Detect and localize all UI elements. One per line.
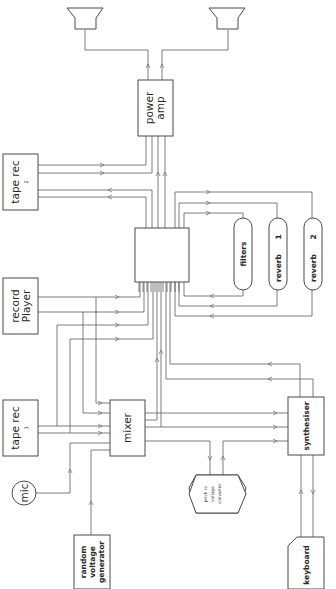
wire-amp-speaker-left	[85, 30, 148, 80]
record-player-block: record Player	[3, 278, 38, 334]
wire-rvg-mixer	[91, 450, 110, 535]
reverb-1-label: reverb	[274, 253, 283, 281]
speaker-left	[67, 8, 103, 29]
filters-block: filters	[234, 218, 252, 290]
tape-rec-1-label: tape rec	[9, 406, 21, 450]
rvg-label-1: random	[79, 546, 88, 579]
wire-matrix-reverb1-out	[179, 203, 277, 228]
keyboard-block: keyboard	[288, 537, 324, 589]
power-amp-block: power amp	[138, 80, 173, 136]
reverb-1-block: reverb 1	[269, 218, 287, 290]
wire-mic-mixer	[36, 443, 110, 493]
mixer-block: mixer	[110, 400, 145, 456]
wire-tape2-amp-b	[38, 136, 152, 173]
patch-matrix-pins	[139, 282, 179, 292]
studio-signal-flow-diagram: power amp tape rec 2 record Player tape …	[0, 0, 336, 589]
rvg-label-3: generator	[97, 541, 106, 583]
wire-synth-matrix-a	[170, 282, 300, 397]
diagram-canvas: power amp tape rec 2 record Player tape …	[0, 0, 336, 589]
wire-synth-matrix-b	[166, 282, 313, 397]
rvg-label-2: voltage	[88, 546, 97, 578]
ptv-label-2: voltage	[210, 486, 215, 502]
synthesiser-block: synthesiser	[288, 397, 324, 455]
keyboard-label: keyboard	[302, 545, 311, 584]
tape-rec-1-block: tape rec 1	[3, 400, 38, 456]
wire-reverb1-matrix-in	[179, 282, 277, 306]
loudspeaker-icon	[67, 8, 103, 29]
wire-record-matrix-a	[38, 282, 140, 297]
filters-label: filters	[239, 241, 248, 267]
tape-rec-2-number: 2	[23, 180, 29, 183]
wire-mixer-matrix-a	[145, 282, 157, 420]
wire-matrix-tape2-a	[38, 190, 152, 228]
pitch-to-voltage-converter-block: pitch to voltage converter	[189, 475, 246, 513]
mic-block: mic	[12, 481, 36, 505]
tape-rec-2-block: tape rec 2	[3, 154, 38, 210]
reverb-2-block: reverb 2	[304, 218, 322, 290]
random-voltage-generator-block: random voltage generator	[74, 535, 110, 589]
wire-mixer-ptv	[145, 441, 210, 475]
patch-matrix-block	[135, 228, 189, 292]
wire-matrix-tape2-b	[38, 197, 146, 228]
power-amp-label-2: amp	[154, 96, 166, 120]
reverb-1-number: 1	[274, 234, 283, 239]
wire-amp-speaker-right	[162, 30, 228, 80]
wire-ptv-synth	[223, 441, 288, 475]
loudspeaker-icon	[209, 8, 245, 29]
ptv-label-1: pitch to	[203, 486, 208, 502]
wire-record-mixer-a	[96, 297, 110, 403]
wire-tape2-amp-a	[38, 136, 146, 165]
tape-rec-2-label: tape rec	[9, 160, 21, 204]
reverb-2-label: reverb	[309, 253, 318, 281]
ptv-label-3: converter	[217, 484, 222, 505]
wire-record-mixer-b	[83, 312, 110, 413]
mixer-label: mixer	[121, 412, 133, 442]
mic-label: mic	[18, 483, 30, 502]
reverb-2-number: 2	[309, 234, 318, 239]
record-player-label-2: Player	[20, 289, 32, 322]
tape-rec-1-number: 1	[23, 426, 29, 429]
synthesiser-label: synthesiser	[302, 401, 311, 450]
speaker-right	[209, 8, 245, 29]
